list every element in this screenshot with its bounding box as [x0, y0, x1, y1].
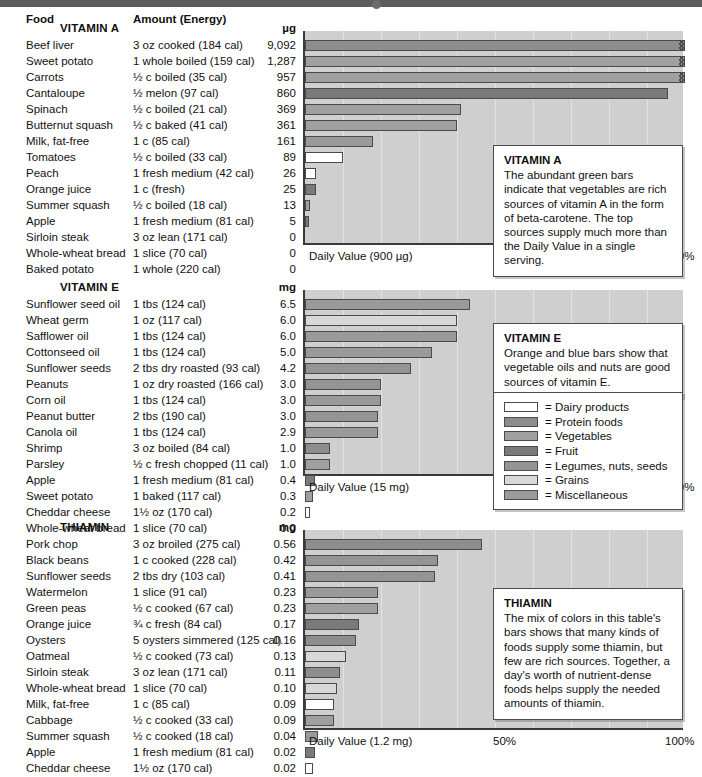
nutrient-value: 0 — [215, 231, 296, 243]
nutrient-value: 0.2 — [215, 506, 296, 518]
food-name: Baked potato — [26, 263, 94, 275]
food-name: Cheddar cheese — [26, 762, 110, 774]
nutrient-value: 0.10 — [215, 682, 296, 694]
nutrient-value: 9,092 — [215, 39, 296, 51]
legend-swatch — [504, 431, 538, 441]
food-name: Cabbage — [26, 714, 73, 726]
legend-item: = Grains — [504, 473, 673, 488]
table-row: Sunflower seed oil1 tbs (124 cal)6.5 — [0, 297, 702, 313]
nutrient-value: 6.0 — [215, 314, 296, 326]
food-name: Whole-wheat bread — [26, 247, 126, 259]
callout-text: The abundant green bars indicate that ve… — [504, 169, 667, 266]
callout-box: THIAMINThe mix of colors in this table's… — [493, 588, 683, 720]
nutrient-value: 0.23 — [215, 602, 296, 614]
food-amount: 1 tbs (124 cal) — [133, 394, 206, 406]
nutrient-value: 0.23 — [215, 586, 296, 598]
callout-title: THIAMIN — [504, 596, 673, 610]
nutrient-value: 5 — [215, 215, 296, 227]
nutrient-value: 0 — [215, 263, 296, 275]
food-amount: 1 whole (220 cal) — [133, 263, 221, 275]
nutrient-value: 0.02 — [215, 746, 296, 758]
food-name: Peach — [26, 167, 59, 179]
food-amount: 1 slice (70 cal) — [133, 247, 207, 259]
nutrient-value: 1.0 — [215, 458, 296, 470]
food-name: Apple — [26, 215, 55, 227]
nutrient-value: 0.41 — [215, 570, 296, 582]
food-amount: 1 tbs (124 cal) — [133, 346, 206, 358]
food-amount: 3 oz lean (171 cal) — [133, 231, 228, 243]
nutrient-value: 0.09 — [215, 714, 296, 726]
food-name: Butternut squash — [26, 119, 113, 131]
nutrient-value: 0.11 — [215, 666, 296, 678]
food-name: Sweet potato — [26, 55, 93, 67]
food-name: Corn oil — [26, 394, 66, 406]
food-name: Safflower oil — [26, 330, 88, 342]
food-name: Milk, fat-free — [26, 698, 89, 710]
food-amount: 1 tbs (124 cal) — [133, 298, 206, 310]
food-amount: ½ c boiled (33 cal) — [133, 151, 227, 163]
table-row: Cantaloupe½ melon (97 cal)860 — [0, 86, 702, 102]
nutrient-value: 161 — [215, 135, 296, 147]
legend-label: = Fruit — [545, 445, 578, 457]
nutrient-value: 0.16 — [215, 634, 296, 646]
food-name: Summer squash — [26, 730, 110, 742]
legend-item: = Protein foods — [504, 415, 673, 430]
nutrient-value: 13 — [215, 199, 296, 211]
food-name: Milk, fat-free — [26, 135, 89, 147]
food-name: Shrimp — [26, 442, 62, 454]
food-amount: 1 c (85 cal) — [133, 698, 190, 710]
nutrient-value: 2.9 — [215, 426, 296, 438]
nutrient-value: 6.0 — [215, 330, 296, 342]
food-amount: ½ c boiled (18 cal) — [133, 199, 227, 211]
nutrient-value: 0.56 — [215, 538, 296, 550]
nutrient-value: 5.0 — [215, 346, 296, 358]
food-amount: 2 tbs dry (103 cal) — [133, 570, 225, 582]
food-name: Apple — [26, 474, 55, 486]
food-amount: 1 baked (117 cal) — [133, 490, 221, 502]
food-name: Cheddar cheese — [26, 506, 110, 518]
legend-swatch — [504, 475, 538, 485]
food-name: Spinach — [26, 103, 68, 115]
legend-item: = Fruit — [504, 444, 673, 459]
page-top-rule — [0, 0, 702, 7]
food-name: Wheat germ — [26, 314, 89, 326]
legend-swatch — [504, 490, 538, 500]
nutrient-value: 1,287 — [215, 55, 296, 67]
food-amount: 1 slice (91 cal) — [133, 586, 207, 598]
food-amount: 1½ oz (170 cal) — [133, 762, 212, 774]
callout-title: VITAMIN A — [504, 153, 673, 167]
food-amount: 1½ oz (170 cal) — [133, 506, 212, 518]
food-amount: ½ c baked (41 cal) — [133, 119, 228, 131]
food-amount: ¾ c fresh (84 cal) — [133, 618, 222, 630]
food-amount: 1 slice (70 cal) — [133, 522, 207, 534]
food-name: Carrots — [26, 71, 64, 83]
food-name: Sunflower seed oil — [26, 298, 120, 310]
legend-label: = Legumes, nuts, seeds — [545, 460, 667, 472]
food-name: Sunflower seeds — [26, 362, 111, 374]
food-name: Pork chop — [26, 538, 78, 550]
food-amount: 1 tbs (124 cal) — [133, 330, 206, 342]
legend-box: = Dairy products= Protein foods= Vegetab… — [493, 392, 683, 510]
food-amount: 1 c (fresh) — [133, 183, 185, 195]
food-amount: ½ melon (97 cal) — [133, 87, 219, 99]
unit-header: mg — [279, 281, 296, 293]
legend-item: = Legumes, nuts, seeds — [504, 458, 673, 473]
food-amount: ½ c boiled (21 cal) — [133, 103, 227, 115]
food-amount: 1 tbs (124 cal) — [133, 426, 206, 438]
food-amount: 1 c (85 cal) — [133, 135, 190, 147]
nutrient-value: 0.02 — [215, 762, 296, 774]
food-amount: 2 tbs (190 cal) — [133, 410, 206, 422]
food-name: Canola oil — [26, 426, 77, 438]
legend-label: = Miscellaneous — [545, 489, 628, 501]
table-row: Beef liver3 oz cooked (184 cal)9,092 — [0, 38, 702, 54]
table-row: Butternut squash½ c baked (41 cal)361 — [0, 118, 702, 134]
unit-header: mg — [279, 521, 296, 533]
food-name: Orange juice — [26, 618, 91, 630]
food-name: Parsley — [26, 458, 64, 470]
food-name: Watermelon — [26, 586, 88, 598]
column-header-amount: Amount (Energy) — [133, 13, 226, 25]
food-name: Sweet potato — [26, 490, 93, 502]
food-amount: 1 slice (70 cal) — [133, 682, 207, 694]
callout-text: Orange and blue bars show that vegetable… — [504, 347, 670, 387]
food-amount: ½ c boiled (35 cal) — [133, 71, 227, 83]
